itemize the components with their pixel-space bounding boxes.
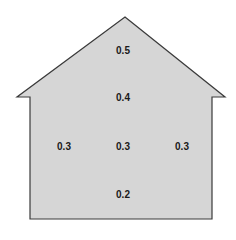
label-roof-top: 0.5 <box>116 45 130 56</box>
label-middle-right: 0.3 <box>175 141 189 152</box>
label-middle-center: 0.3 <box>116 141 130 152</box>
label-middle-left: 0.3 <box>57 141 71 152</box>
label-bottom: 0.2 <box>116 189 130 200</box>
label-roof-base: 0.4 <box>116 92 130 103</box>
